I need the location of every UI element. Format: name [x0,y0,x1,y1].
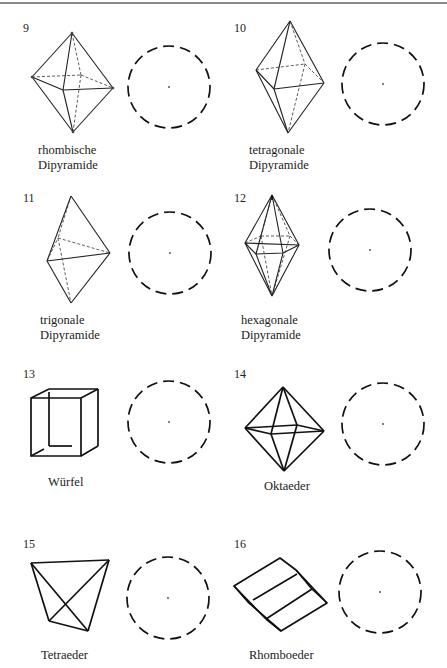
figure-label-13: Würfel [48,475,83,490]
rhombic-dipyramid-drawing [31,32,115,134]
figure-label-11-line1: trigonale [40,313,100,328]
figure-label-12: hexagonale Dipyramide [241,313,301,343]
trigonal-dipyramid-drawing [47,196,110,303]
figure-label-10: tetragonale Dipyramide [249,143,309,173]
figure-label-9-line2: Dipyramide [38,158,98,173]
figure-number-10: 10 [234,21,246,36]
figure-number-16: 16 [234,537,246,552]
figure-label-11: trigonale Dipyramide [40,313,100,343]
figure-label-9-line1: rhombische [38,143,98,158]
figure-label-15: Tetraeder [41,648,88,663]
tetragonal-dipyramid-drawing [256,21,324,133]
figure-label-9: rhombische Dipyramide [38,143,98,173]
hexagonal-dipyramid-drawing [245,195,299,296]
figure-number-11: 11 [23,191,35,206]
figure-label-12-line1: hexagonale [241,313,301,328]
figure-number-14: 14 [234,367,246,382]
figure-label-12-line2: Dipyramide [241,328,301,343]
cube-drawing [31,389,98,456]
figure-label-14: Oktaeder [264,479,310,494]
octahedron-drawing [245,387,324,471]
figure-number-9: 9 [23,21,29,36]
figure-number-13: 13 [23,367,35,382]
figure-label-10-line2: Dipyramide [249,158,309,173]
figure-number-12: 12 [234,191,246,206]
figure-number-15: 15 [23,537,35,552]
figure-label-16: Rhomboeder [249,648,314,663]
rhombohedron-drawing [234,558,327,631]
tetrahedron-drawing [31,560,109,631]
figure-label-10-line1: tetragonale [249,143,309,158]
figure-label-11-line2: Dipyramide [40,328,100,343]
